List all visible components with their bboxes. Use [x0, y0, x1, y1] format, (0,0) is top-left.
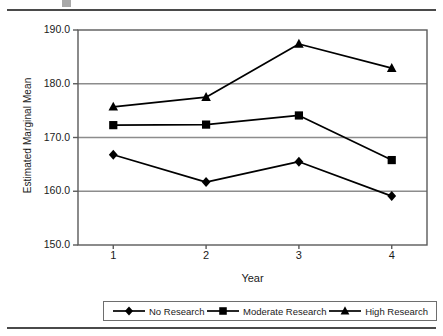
- legend-key: [206, 304, 240, 318]
- square-marker-icon: [388, 156, 396, 164]
- legend-entry[interactable]: Moderate Research: [206, 304, 326, 318]
- diamond-marker-icon: [295, 157, 304, 167]
- x-axis-title: Year: [78, 272, 427, 284]
- square-marker-icon: [109, 121, 117, 129]
- diamond-marker-icon: [109, 150, 118, 160]
- diamond-marker-icon: [387, 191, 396, 201]
- legend-key: [112, 304, 146, 318]
- figure-container: Estimated Marginal Mean 190.0180.0170.01…: [0, 0, 443, 336]
- diamond-marker-icon: [125, 306, 133, 315]
- legend-entry[interactable]: High Research: [328, 304, 428, 318]
- diamond-marker-icon: [202, 177, 211, 187]
- legend-label: No Research: [149, 306, 204, 317]
- legend-label: High Research: [365, 306, 428, 317]
- legend: No ResearchModerate ResearchHigh Researc…: [103, 301, 437, 321]
- square-marker-icon: [219, 307, 227, 315]
- triangle-marker-icon: [201, 92, 211, 101]
- legend-key: [328, 304, 362, 318]
- legend-label: Moderate Research: [243, 306, 326, 317]
- triangle-marker-icon: [294, 39, 304, 48]
- square-marker-icon: [202, 121, 210, 129]
- series-line: [113, 44, 391, 107]
- square-marker-icon: [295, 111, 303, 119]
- series-line: [113, 155, 391, 196]
- legend-entry[interactable]: No Research: [112, 304, 204, 318]
- plot-area: [0, 0, 443, 336]
